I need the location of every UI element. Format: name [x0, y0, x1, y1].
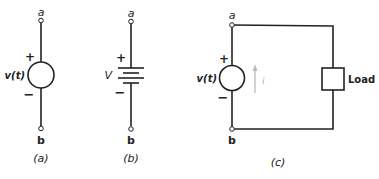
source-label: v(t) — [5, 70, 25, 81]
voltage-source-icon — [28, 62, 54, 88]
figure-c: Load i a b + − v(t) (c) — [197, 9, 376, 169]
plus-sign: + — [25, 50, 35, 64]
source-label: V — [104, 69, 113, 82]
terminal-a-icon — [230, 23, 235, 28]
load-box-icon — [322, 68, 344, 90]
terminal-a-label: a — [38, 6, 45, 19]
terminal-b-label: b — [127, 134, 135, 147]
caption-a: (a) — [33, 152, 48, 165]
caption-b: (b) — [123, 152, 139, 165]
source-label: v(t) — [197, 73, 217, 84]
terminal-b-icon — [129, 127, 134, 132]
figure-a: a b + − v(t) (a) — [5, 6, 54, 165]
terminal-a-label: a — [128, 7, 135, 20]
terminal-a-label: a — [229, 9, 236, 22]
plus-sign: + — [219, 52, 229, 66]
wire-bottom — [234, 90, 333, 129]
caption-c: (c) — [271, 156, 286, 169]
current-label: i — [262, 76, 265, 86]
load-label: Load — [348, 74, 375, 85]
terminal-b-icon — [230, 127, 235, 132]
minus-sign: − — [24, 87, 35, 102]
current-arrow-icon — [253, 64, 258, 93]
minus-sign: − — [218, 90, 229, 105]
figure-b: a b + − V (b) — [104, 7, 144, 165]
minus-sign: − — [115, 85, 126, 100]
wire-top — [232, 25, 333, 68]
terminal-b-icon — [39, 126, 44, 131]
circuit-diagrams: a b + − v(t) (a) a b + − V (b) — [0, 0, 379, 179]
plus-sign: + — [116, 51, 126, 65]
terminal-b-label: b — [228, 134, 236, 147]
battery-icon — [118, 68, 144, 83]
terminal-b-label: b — [37, 134, 45, 147]
voltage-source-icon — [220, 66, 245, 91]
